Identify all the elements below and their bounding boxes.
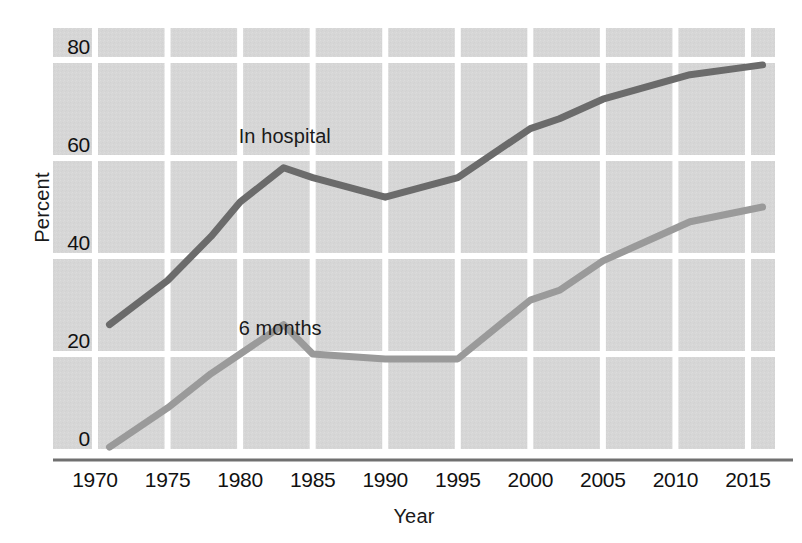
series-annotation-in-hospital: In hospital	[239, 125, 331, 148]
series-annotation-six-months: 6 months	[239, 317, 322, 340]
x-tick-label: 1980	[200, 468, 280, 492]
y-tick-label: 40	[46, 231, 90, 255]
x-tick-label: 2015	[708, 468, 788, 492]
x-tick-label: 1985	[273, 468, 353, 492]
x-tick-label: 2005	[563, 468, 643, 492]
y-tick-label: 0	[46, 427, 90, 451]
x-tick-label: 1970	[55, 468, 135, 492]
y-tick-label: 20	[46, 329, 90, 353]
y-tick-label: 60	[46, 133, 90, 157]
x-axis-title: Year	[53, 505, 775, 528]
x-tick-label: 1975	[128, 468, 208, 492]
plot-area-background	[53, 28, 775, 452]
x-tick-label: 1995	[418, 468, 498, 492]
x-tick-label: 2010	[635, 468, 715, 492]
x-tick-label: 1990	[345, 468, 425, 492]
chart-figure: Percent Year 020406080 19701975198019851…	[0, 0, 802, 543]
line-chart-canvas	[0, 0, 802, 543]
x-tick-label: 2000	[490, 468, 570, 492]
y-tick-label: 80	[46, 35, 90, 59]
